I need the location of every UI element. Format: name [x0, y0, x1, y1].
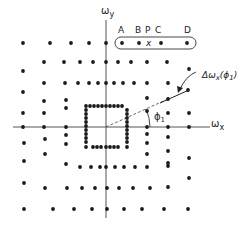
lattice-dot: [43, 186, 47, 190]
lattice-dot: [65, 186, 69, 190]
lattice-dot: [145, 81, 149, 85]
lattice-dot: [145, 96, 149, 100]
lattice-dot: [120, 41, 124, 45]
lattice-dot: [125, 108, 129, 112]
lattice-dot: [21, 125, 25, 129]
lattice-dot: [122, 165, 126, 169]
lattice-dot: [87, 41, 91, 45]
lattice-dot: [63, 81, 67, 85]
lattice-dot: [42, 125, 46, 129]
lattice-dot: [166, 81, 170, 85]
lattice-dot: [112, 145, 116, 149]
lattice-dot: [89, 165, 93, 169]
lattice-dot: [104, 41, 108, 45]
lattice-dot: [166, 135, 170, 139]
lattice-dot: [166, 111, 170, 115]
lattice-dot: [76, 81, 80, 85]
lattice-dot: [125, 132, 129, 136]
lattice-dot: [84, 112, 88, 116]
lattice-dot: [42, 111, 46, 115]
label-p: P: [145, 25, 151, 35]
lattice-dot: [22, 207, 26, 211]
lattice-dot: [112, 104, 116, 108]
label-d: D: [184, 25, 191, 35]
label-b: B: [135, 25, 141, 35]
lattice-dot: [145, 60, 149, 64]
lattice-dot: [116, 60, 120, 64]
lattice-dot: [105, 207, 109, 211]
lattice-dot: [42, 60, 46, 64]
lattice-dot: [117, 186, 121, 190]
lattice-dot: [166, 164, 170, 168]
lattice-dot: [48, 41, 52, 45]
lattice-dot: [125, 124, 129, 128]
angle-label: ϕ1: [154, 111, 165, 124]
lattice-dot: [108, 104, 112, 108]
tangent-segment: [160, 90, 189, 103]
lattice-dot: [145, 141, 149, 145]
lattice-dot: [100, 104, 104, 108]
lattice-dot: [21, 90, 25, 94]
lattice-dot: [104, 104, 108, 108]
lattice-dot: [187, 176, 191, 180]
lattice-dot: [72, 207, 76, 211]
lattice-dot: [140, 207, 144, 211]
lattice-dot: [90, 207, 94, 211]
lattice-dot: [104, 60, 108, 64]
lattice-dot: [166, 125, 170, 129]
x-axis-label: ωx: [211, 118, 224, 132]
lattice-dot: [64, 125, 68, 129]
lattice-dot: [113, 165, 117, 169]
lattice-dot: [116, 145, 120, 149]
diagram-canvas: ωy ωx A B P C D x ϕ1 Δωx(ϕ1): [0, 0, 247, 225]
lattice-dot: [104, 165, 108, 169]
lattice-dot: [120, 104, 124, 108]
lattice-dot: [104, 145, 108, 149]
lattice-dot: [122, 207, 126, 211]
lattice-dot: [96, 104, 100, 108]
lattice-dot: [166, 185, 170, 189]
lattice-dot: [187, 125, 191, 129]
lattice-dot: [104, 81, 108, 85]
lattice-dot: [96, 81, 100, 85]
lattice-dot: [93, 186, 97, 190]
lattice-dot: [166, 97, 170, 101]
lattice-dot: [125, 116, 129, 120]
lattice-dot: [64, 142, 68, 146]
y-axis-label: ωy: [101, 5, 114, 19]
lattice-dot: [116, 104, 120, 108]
lattice-dot: [43, 137, 47, 141]
lattice-dot: [125, 112, 129, 116]
arrowhead-icon: [177, 86, 183, 93]
annotation-arrow: [180, 72, 196, 89]
lattice-dot: [78, 60, 82, 64]
lattice-dot: [21, 69, 25, 73]
lattice-dot: [159, 41, 163, 45]
lattice-dot: [43, 152, 47, 156]
lattice-dot: [132, 81, 136, 85]
lattice-dot: [125, 120, 129, 124]
lattice-dot: [42, 81, 46, 85]
lattice-dot: [131, 186, 135, 190]
lattice-dot: [84, 136, 88, 140]
lattice-dot: [84, 120, 88, 124]
lattice-dot: [185, 41, 189, 45]
lattice-dot: [145, 125, 149, 129]
lattice-dot: [112, 81, 116, 85]
lattice-dot: [105, 186, 109, 190]
lattice-dot: [42, 99, 46, 103]
lattice-dot: [125, 145, 129, 149]
lattice-dot: [187, 67, 191, 71]
lattice-dot: [69, 41, 73, 45]
lattice-dot: [84, 116, 88, 120]
lattice-dot: [133, 165, 137, 169]
lattice-dot: [64, 98, 68, 102]
lattice-dot: [84, 132, 88, 136]
lattice-dot: [84, 108, 88, 112]
lattice-dot: [186, 207, 190, 211]
lattice-dot: [22, 141, 26, 145]
lattice-dot: [91, 145, 95, 149]
lattice-dot: [98, 165, 102, 169]
lattice-dot: [84, 145, 88, 149]
lattice-dot: [129, 60, 133, 64]
